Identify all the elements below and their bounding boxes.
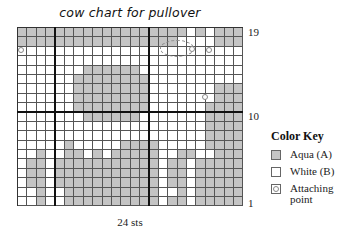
chart-cell	[74, 66, 83, 75]
chart-cell	[168, 197, 177, 206]
chart-cell	[37, 113, 46, 122]
chart-cell	[131, 113, 140, 122]
chart-cell	[56, 28, 65, 37]
chart-cell	[37, 37, 46, 46]
chart-cell	[121, 56, 130, 65]
chart-cell	[93, 75, 102, 84]
chart-cell	[159, 197, 168, 206]
chart-cell	[206, 141, 215, 150]
chart-cell	[93, 197, 102, 206]
chart-cell	[234, 28, 243, 37]
chart-cell	[234, 47, 243, 56]
attaching-point-icon	[206, 47, 212, 53]
chart-cell	[131, 84, 140, 93]
chart-cell	[84, 159, 93, 168]
chart-cell	[56, 150, 65, 159]
chart-cell	[103, 37, 112, 46]
chart-cell	[37, 169, 46, 178]
chart-cell	[93, 28, 102, 37]
chart-cell	[65, 75, 74, 84]
chart-cell	[225, 188, 234, 197]
chart-cell	[56, 131, 65, 140]
chart-cell	[65, 178, 74, 187]
chart-cell	[93, 47, 102, 56]
chart-cell	[131, 94, 140, 103]
chart-cell	[65, 94, 74, 103]
attaching-point-icon	[189, 46, 195, 52]
chart-cell	[206, 84, 215, 93]
chart-cell	[206, 37, 215, 46]
chart-cell	[168, 66, 177, 75]
chart-cell	[196, 169, 205, 178]
chart-cell	[103, 150, 112, 159]
chart-cell	[168, 141, 177, 150]
chart-cell	[225, 75, 234, 84]
chart-cell	[168, 75, 177, 84]
chart-cell	[37, 122, 46, 131]
chart-cell	[206, 28, 215, 37]
chart-cell	[112, 94, 121, 103]
chart-cell	[149, 75, 158, 84]
chart-cell	[215, 94, 224, 103]
chart-cell	[65, 159, 74, 168]
chart-cell	[27, 84, 36, 93]
color-key-title: Color Key	[271, 129, 350, 144]
chart-cell	[121, 141, 130, 150]
chart-cell	[159, 141, 168, 150]
chart-cell	[112, 197, 121, 206]
chart-cell	[234, 113, 243, 122]
chart-cell	[206, 75, 215, 84]
chart-cell	[187, 84, 196, 93]
chart-cell	[215, 75, 224, 84]
chart-cell	[65, 197, 74, 206]
chart-cell	[121, 47, 130, 56]
attaching-point-icon	[18, 47, 24, 53]
chart-cell	[159, 169, 168, 178]
chart-cell	[159, 66, 168, 75]
chart-cell	[84, 150, 93, 159]
knitting-chart-grid	[17, 27, 243, 206]
chart-cell	[187, 113, 196, 122]
chart-cell	[225, 84, 234, 93]
chart-cell	[112, 178, 121, 187]
chart-cell	[131, 28, 140, 37]
chart-cell	[103, 169, 112, 178]
chart-cell	[103, 159, 112, 168]
chart-cell	[206, 122, 215, 131]
chart-cell	[225, 122, 234, 131]
chart-cell	[112, 75, 121, 84]
chart-cell	[74, 159, 83, 168]
chart-cell	[187, 141, 196, 150]
chart-cell	[103, 84, 112, 93]
chart-cell	[93, 169, 102, 178]
chart-cell	[149, 113, 158, 122]
key-item-aqua: Aqua (A)	[271, 149, 350, 160]
chart-cell	[168, 56, 177, 65]
chart-cell	[93, 94, 102, 103]
chart-cell	[84, 75, 93, 84]
chart-cell	[93, 56, 102, 65]
chart-cell	[225, 94, 234, 103]
chart-cell	[18, 113, 27, 122]
chart-cell	[18, 75, 27, 84]
chart-cell	[37, 84, 46, 93]
chart-cell	[215, 37, 224, 46]
chart-cell	[159, 94, 168, 103]
key-item-attach: Attaching point	[271, 183, 350, 205]
chart-cell	[27, 159, 36, 168]
chart-cell	[215, 56, 224, 65]
chart-cell	[215, 188, 224, 197]
chart-cell	[149, 84, 158, 93]
chart-cell	[112, 188, 121, 197]
chart-cell	[112, 141, 121, 150]
chart-cell	[56, 141, 65, 150]
chart-cell	[215, 28, 224, 37]
chart-cell	[93, 150, 102, 159]
chart-cell	[56, 159, 65, 168]
chart-cell	[93, 131, 102, 140]
chart-cell	[84, 197, 93, 206]
chart-cell	[225, 169, 234, 178]
chart-cell	[56, 56, 65, 65]
chart-cell	[27, 66, 36, 75]
chart-cell	[65, 84, 74, 93]
